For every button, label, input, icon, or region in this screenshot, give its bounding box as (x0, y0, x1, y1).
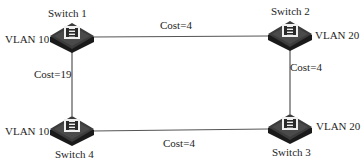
switch1-name: Switch 1 (48, 7, 87, 19)
switch2-name: Switch 2 (271, 5, 310, 17)
cost-label-1-4: Cost=19 (34, 68, 71, 80)
switch-icon (268, 114, 312, 144)
switch3-vlan: VLAN 20 (316, 120, 360, 132)
link-switch4-switch3 (92, 129, 268, 131)
switch4-vlan: VLAN 10 (5, 125, 49, 137)
switch-icon (50, 23, 94, 53)
switch2-vlan: VLAN 20 (315, 29, 359, 41)
switch-icon (50, 116, 94, 146)
switch3-name: Switch 3 (272, 146, 311, 158)
cost-label-4-3: Cost=4 (163, 137, 195, 149)
switch1-vlan: VLAN 10 (5, 33, 49, 45)
cost-label-1-2: Cost=4 (160, 19, 192, 31)
switch4-name: Switch 4 (55, 148, 94, 160)
cost-label-2-3: Cost=4 (290, 61, 322, 73)
link-switch1-switch2 (92, 36, 268, 37)
switch-icon (268, 21, 312, 51)
network-topology-diagram: Switch 1 VLAN 10 Switch 2 VLAN 20 Switch… (0, 0, 362, 166)
